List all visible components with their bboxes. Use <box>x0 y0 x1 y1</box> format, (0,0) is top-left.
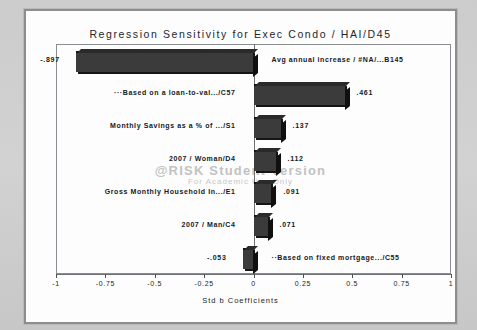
bar-category-label: ···Based on a loan-to-val.../C57 <box>114 89 236 96</box>
x-axis: -1-0.75-0.5-0.2500.250.50.751 <box>56 274 451 275</box>
bar-category-label: Monthly Savings as a % of .../S1 <box>110 122 235 129</box>
x-tick <box>204 274 205 278</box>
x-tick-label: 0 <box>251 280 256 287</box>
x-tick-label: -1 <box>52 280 60 287</box>
bar-category-label: Avg annual increase / #NA/...B145 <box>272 56 404 63</box>
bar-value-label: -.897 <box>40 56 59 63</box>
bar <box>254 84 345 105</box>
bar <box>76 51 253 72</box>
x-tick-label: 0.5 <box>346 280 358 287</box>
x-tick-label: 1 <box>449 280 454 287</box>
bar-value-label: .461 <box>357 89 373 96</box>
bar-value-label: -.053 <box>207 254 226 261</box>
plot-area: -.897Avg annual increase / #NA/...B145.4… <box>56 44 451 274</box>
x-tick-label: 0.75 <box>393 280 409 287</box>
x-tick <box>303 274 304 278</box>
bar-value-label: .071 <box>280 221 296 228</box>
chart-title: Regression Sensitivity for Exec Condo / … <box>26 28 455 40</box>
x-tick <box>155 274 156 278</box>
x-tick <box>254 274 255 278</box>
x-tick <box>56 274 57 278</box>
bar <box>243 248 253 269</box>
bar-category-label: 2007 / Man/C4 <box>181 221 235 228</box>
bar <box>254 215 268 236</box>
bar-category-label: 2007 / Woman/D4 <box>169 155 235 162</box>
bar-value-label: .112 <box>288 155 304 162</box>
x-tick <box>105 274 106 278</box>
x-tick-label: -0.25 <box>194 280 213 287</box>
bar <box>254 117 281 138</box>
x-tick <box>451 274 452 278</box>
bar-value-label: .137 <box>293 122 309 129</box>
x-axis-title: Std b Coefficients <box>26 296 455 305</box>
x-tick <box>402 274 403 278</box>
screenshot-root: Regression Sensitivity for Exec Condo / … <box>0 0 477 330</box>
bar <box>254 182 272 203</box>
x-tick-label: 0.25 <box>295 280 311 287</box>
bar-category-label: ··Based on fixed mortgage.../C55 <box>272 254 400 261</box>
x-tick <box>352 274 353 278</box>
chart-frame: Regression Sensitivity for Exec Condo / … <box>24 9 457 324</box>
x-tick-label: -0.5 <box>147 280 162 287</box>
bar-value-label: .091 <box>283 188 299 195</box>
bar-category-label: Gross Monthly Household In.../E1 <box>105 188 236 195</box>
x-tick-label: -0.75 <box>96 280 115 287</box>
bar <box>254 150 276 171</box>
